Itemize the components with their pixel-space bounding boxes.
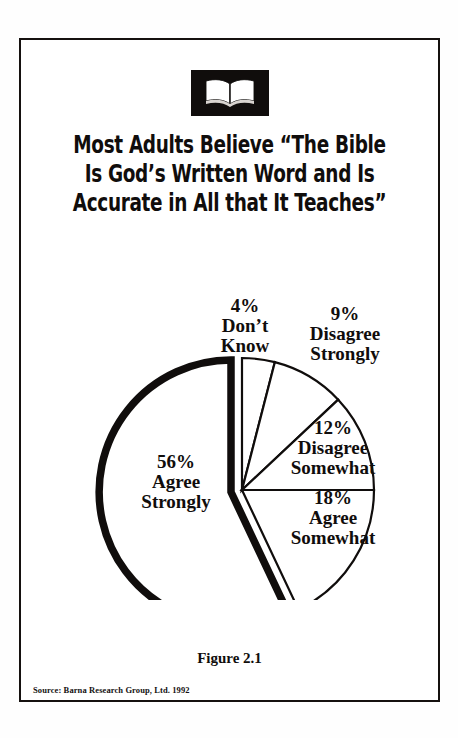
pie-label-disagree-somewhat-pct: 12% xyxy=(273,418,393,438)
pie-label-agree-strongly-line1: Agree xyxy=(121,472,231,492)
title-line-3: Accurate in All that It Teaches” xyxy=(59,188,401,217)
pie-label-agree-strongly-pct: 56% xyxy=(121,452,231,472)
pie-label-dont-know-line2: Know xyxy=(204,336,286,356)
pie-label-disagree-strongly-pct: 9% xyxy=(293,304,397,324)
pie-label-dont-know: 4% Don’t Know xyxy=(204,296,286,355)
figure-caption: Figure 2.1 xyxy=(21,650,438,667)
pie-chart: 4% Don’t Know 9% Disagree Strongly 12% D… xyxy=(21,240,442,600)
pie-label-disagree-somewhat-line2: Somewhat xyxy=(273,458,393,478)
pie-label-agree-strongly: 56% Agree Strongly xyxy=(121,452,231,511)
open-book-icon xyxy=(191,70,269,116)
source-note: Source: Barna Research Group, Ltd. 1992 xyxy=(33,685,190,695)
title-line-1: Most Adults Believe “The Bible xyxy=(59,130,401,159)
pie-label-agree-somewhat-line1: Agree xyxy=(273,508,393,528)
pie-label-dont-know-pct: 4% xyxy=(204,296,286,316)
pie-label-disagree-strongly-line2: Strongly xyxy=(293,344,397,364)
pie-label-disagree-somewhat-line1: Disagree xyxy=(273,438,393,458)
title-line-2: Is God’s Written Word and Is xyxy=(59,159,401,188)
pie-label-agree-strongly-line2: Strongly xyxy=(121,492,231,512)
figure-page: Most Adults Believe “The Bible Is God’s … xyxy=(0,0,458,738)
page-title: Most Adults Believe “The Bible Is God’s … xyxy=(59,130,401,217)
pie-label-disagree-strongly: 9% Disagree Strongly xyxy=(293,304,397,363)
pie-label-agree-somewhat: 18% Agree Somewhat xyxy=(273,488,393,547)
pie-label-disagree-strongly-line1: Disagree xyxy=(293,324,397,344)
pie-label-agree-somewhat-line2: Somewhat xyxy=(273,528,393,548)
pie-label-dont-know-line1: Don’t xyxy=(204,316,286,336)
pie-label-disagree-somewhat: 12% Disagree Somewhat xyxy=(273,418,393,477)
figure-frame: Most Adults Believe “The Bible Is God’s … xyxy=(19,38,440,702)
pie-label-agree-somewhat-pct: 18% xyxy=(273,488,393,508)
